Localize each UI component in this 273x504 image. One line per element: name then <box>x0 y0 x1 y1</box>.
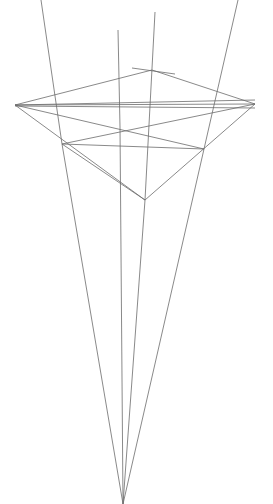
wireframe-figure-root <box>0 0 273 504</box>
wireframe-canvas <box>0 0 273 504</box>
canvas-background <box>0 0 273 504</box>
